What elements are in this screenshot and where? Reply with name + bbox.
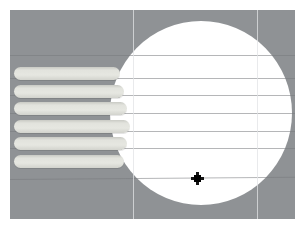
modeling-viewport[interactable] (0, 0, 303, 228)
rib-3[interactable] (14, 102, 127, 115)
crosshair-center (194, 175, 201, 182)
rib-4[interactable] (14, 120, 130, 133)
application-window: 3D Modeling Viewport Front cylindrical-b… (0, 0, 303, 228)
rib-2[interactable] (14, 85, 124, 98)
crosshair-cursor-icon (191, 172, 204, 185)
rib-5[interactable] (14, 137, 127, 150)
rib-6[interactable] (14, 155, 124, 168)
rib-1[interactable] (14, 67, 120, 80)
